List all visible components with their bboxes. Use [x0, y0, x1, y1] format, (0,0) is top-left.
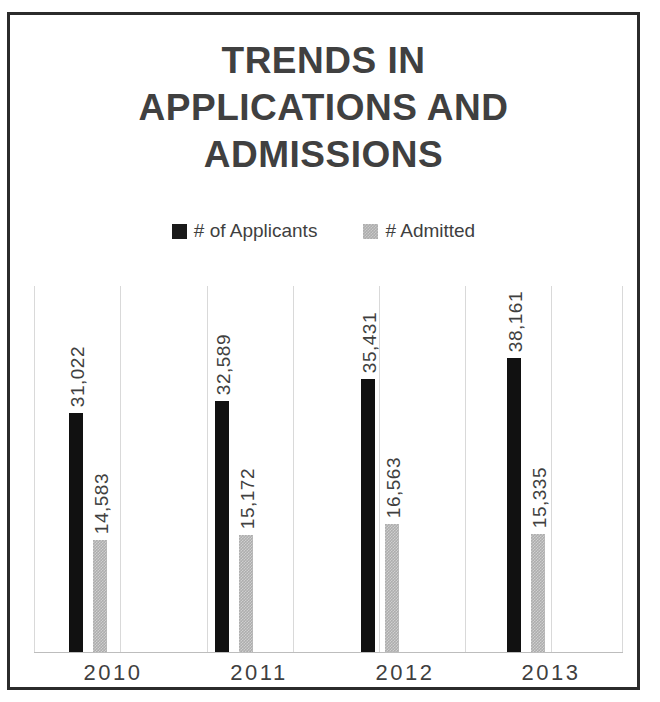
- chart-frame: TRENDS IN APPLICATIONS AND ADMISSIONS # …: [7, 12, 640, 690]
- gridline: [34, 286, 35, 653]
- chart-legend: # of Applicants # Admitted: [10, 220, 637, 242]
- data-label-applicants: 31,022: [68, 346, 87, 407]
- data-label-admitted: 16,563: [384, 457, 403, 518]
- data-label-admitted: 14,583: [92, 473, 111, 534]
- bar-group-2013: 38,161 15,335: [478, 286, 624, 652]
- data-label-applicants: 38,161: [506, 291, 525, 352]
- chart-title: TRENDS IN APPLICATIONS AND ADMISSIONS: [10, 37, 637, 178]
- legend-item-admitted[interactable]: # Admitted: [363, 220, 475, 242]
- x-tick-2011: 2011: [186, 660, 332, 686]
- bar-admitted[interactable]: [239, 535, 253, 652]
- data-label-applicants: 32,589: [214, 334, 233, 395]
- bar-group-2010: 31,022 14,583: [40, 286, 186, 652]
- bar-admitted[interactable]: [531, 534, 545, 652]
- x-tick-2012: 2012: [332, 660, 478, 686]
- plot-area: 31,022 14,583 32,589 15,172 35,431 16,56…: [34, 286, 623, 653]
- x-tick-2013: 2013: [478, 660, 624, 686]
- black-square-icon: [172, 224, 187, 239]
- data-label-applicants: 35,431: [360, 312, 379, 373]
- bar-group-2012: 35,431 16,563: [332, 286, 478, 652]
- x-axis-labels: 2010 2011 2012 2013: [34, 660, 623, 694]
- bar-applicants[interactable]: [507, 358, 521, 652]
- bar-applicants[interactable]: [69, 413, 83, 652]
- legend-label-admitted: # Admitted: [385, 220, 475, 242]
- legend-item-applicants[interactable]: # of Applicants: [172, 220, 318, 242]
- gray-square-icon: [363, 224, 378, 239]
- data-label-admitted: 15,335: [530, 467, 549, 528]
- legend-label-applicants: # of Applicants: [194, 220, 318, 242]
- bar-applicants[interactable]: [361, 379, 375, 652]
- bar-admitted[interactable]: [93, 540, 107, 652]
- bar-group-2011: 32,589 15,172: [186, 286, 332, 652]
- x-tick-2010: 2010: [40, 660, 186, 686]
- data-label-admitted: 15,172: [238, 468, 257, 529]
- axis-baseline: [34, 652, 623, 653]
- bar-admitted[interactable]: [385, 524, 399, 652]
- bar-applicants[interactable]: [215, 401, 229, 652]
